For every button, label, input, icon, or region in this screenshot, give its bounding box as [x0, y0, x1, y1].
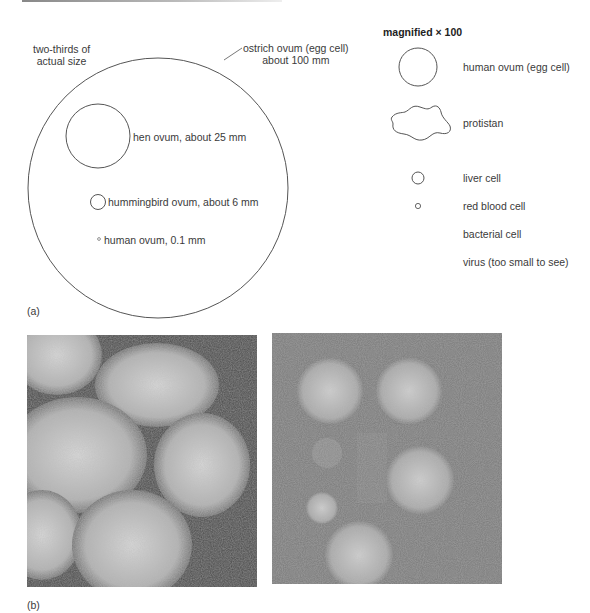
magnified-item-label: red blood cell [463, 200, 525, 212]
magnified-item-label: liver cell [463, 172, 501, 184]
magnified-item-label: virus (too small to see) [463, 256, 569, 268]
ostrich-label-line1: ostrich ovum (egg cell) [243, 42, 349, 54]
liver-cell-circle [412, 172, 424, 184]
panel-a-label: (a) [27, 305, 40, 317]
scale-note-line1: two-thirds of [33, 43, 90, 55]
hummingbird-label: hummingbird ovum, about 6 mm [108, 196, 259, 208]
magnified-factor: × 100 [436, 26, 463, 38]
magnified-word: magnified [383, 26, 433, 38]
panel-b-label: (b) [27, 599, 40, 611]
magnified-item-label: human ovum (egg cell) [463, 61, 570, 73]
ostrich-ovum-circle [28, 58, 288, 318]
ostrich-label-line2: about 100 mm [243, 54, 349, 66]
scale-note-line2: actual size [33, 55, 90, 67]
magnified-item-label: bacterial cell [463, 228, 521, 240]
human-ovum-dot [98, 238, 101, 241]
magnified-item-label: protistan [463, 117, 503, 129]
magnified-title: magnified × 100 [383, 26, 462, 38]
ostrich-leader-line [224, 48, 242, 60]
human-ovum-small-label: human ovum, 0.1 mm [104, 234, 206, 246]
micrograph-right [272, 333, 502, 584]
hen-label: hen ovum, about 25 mm [133, 131, 246, 143]
magnified-human-ovum-circle [399, 48, 437, 86]
micrograph-left [27, 335, 257, 587]
scale-note: two-thirds of actual size [33, 43, 90, 67]
protistan-blob [391, 106, 450, 140]
hummingbird-ovum-circle [91, 195, 106, 210]
red-blood-cell-circle [415, 203, 420, 208]
ostrich-label: ostrich ovum (egg cell) about 100 mm [243, 42, 349, 66]
hen-ovum-circle [66, 104, 130, 168]
